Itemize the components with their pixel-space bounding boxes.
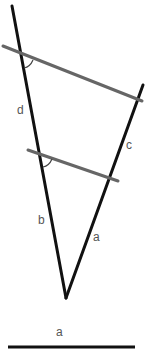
right-line (66, 85, 143, 298)
label-c: c (126, 138, 132, 152)
label-d: d (17, 103, 24, 117)
left-line (12, 6, 66, 298)
geometry-diagram: d c b a a (0, 0, 146, 352)
label-b: b (38, 213, 45, 227)
lower-angle-marker (43, 159, 52, 167)
label-a-reference: a (56, 325, 63, 339)
label-a-side: a (93, 230, 100, 244)
upper-angle-marker (24, 60, 33, 68)
